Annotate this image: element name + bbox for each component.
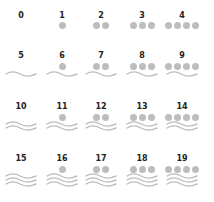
wave-group bbox=[161, 70, 203, 90]
wave-group bbox=[0, 120, 42, 140]
numeral-label: 8 bbox=[121, 52, 163, 60]
dot-group bbox=[41, 63, 83, 70]
numeral-cell: 6 bbox=[41, 52, 83, 92]
wave-group bbox=[121, 70, 163, 90]
numeral-label: 6 bbox=[41, 52, 83, 60]
numeral-cell: 19 bbox=[161, 155, 203, 195]
dot-icon bbox=[102, 63, 109, 70]
wave-icon bbox=[47, 126, 77, 131]
dot-icon bbox=[139, 22, 146, 29]
numeral-cell: 12 bbox=[80, 103, 122, 143]
dot-icon bbox=[183, 63, 190, 70]
wave-icon bbox=[86, 72, 116, 77]
numeral-label: 17 bbox=[80, 155, 122, 163]
dot-icon bbox=[192, 63, 199, 70]
numeral-label: 16 bbox=[41, 155, 83, 163]
dot-icon bbox=[148, 63, 155, 70]
numeral-cell: 5 bbox=[0, 52, 42, 92]
numeral-cell: 15 bbox=[0, 155, 42, 195]
dot-icon bbox=[93, 63, 100, 70]
numeral-label: 10 bbox=[0, 103, 42, 111]
wave-icon bbox=[6, 126, 36, 131]
numeral-label: 0 bbox=[0, 12, 42, 20]
dot-icon bbox=[183, 22, 190, 29]
wave-group bbox=[80, 70, 122, 90]
dot-group bbox=[80, 22, 122, 29]
numeral-cell: 4 bbox=[161, 12, 203, 52]
numeral-cell: 16 bbox=[41, 155, 83, 195]
dot-icon bbox=[59, 22, 66, 29]
wave-icon bbox=[6, 182, 36, 187]
numeral-cell: 10 bbox=[0, 103, 42, 143]
numeral-label: 7 bbox=[80, 52, 122, 60]
wave-icon bbox=[47, 72, 77, 77]
numeral-cell: 18 bbox=[121, 155, 163, 195]
wave-icon bbox=[167, 182, 197, 187]
wave-group bbox=[121, 172, 163, 192]
dot-icon bbox=[165, 63, 172, 70]
wave-icon bbox=[127, 126, 157, 131]
numeral-label: 3 bbox=[121, 12, 163, 20]
dot-group bbox=[41, 22, 83, 29]
dot-group bbox=[80, 63, 122, 70]
wave-group bbox=[41, 120, 83, 140]
numeral-label: 14 bbox=[161, 103, 203, 111]
numeral-cell: 13 bbox=[121, 103, 163, 143]
wave-group bbox=[80, 172, 122, 192]
numeral-label: 15 bbox=[0, 155, 42, 163]
wave-group bbox=[0, 70, 42, 90]
numeral-label: 5 bbox=[0, 52, 42, 60]
wave-icon bbox=[86, 182, 116, 187]
wave-icon bbox=[167, 72, 197, 77]
dot-icon bbox=[102, 22, 109, 29]
dot-icon bbox=[174, 22, 181, 29]
numeral-cell: 0 bbox=[0, 12, 42, 52]
numeral-label: 1 bbox=[41, 12, 83, 20]
dot-icon bbox=[174, 63, 181, 70]
numeral-label: 19 bbox=[161, 155, 203, 163]
numeral-label: 12 bbox=[80, 103, 122, 111]
numeral-cell: 3 bbox=[121, 12, 163, 52]
numeral-label: 18 bbox=[121, 155, 163, 163]
wave-icon bbox=[6, 72, 36, 77]
wave-group bbox=[121, 120, 163, 140]
numeral-label: 2 bbox=[80, 12, 122, 20]
wave-icon bbox=[47, 182, 77, 187]
dot-icon bbox=[59, 63, 66, 70]
wave-group bbox=[41, 70, 83, 90]
wave-icon bbox=[127, 72, 157, 77]
numeral-cell: 7 bbox=[80, 52, 122, 92]
wave-group bbox=[161, 172, 203, 192]
wave-group bbox=[80, 120, 122, 140]
wave-icon bbox=[86, 126, 116, 131]
numeral-label: 13 bbox=[121, 103, 163, 111]
numeral-cell: 1 bbox=[41, 12, 83, 52]
dot-group bbox=[121, 63, 163, 70]
dot-group bbox=[161, 63, 203, 70]
wave-group bbox=[0, 172, 42, 192]
dot-icon bbox=[192, 22, 199, 29]
dot-icon bbox=[139, 63, 146, 70]
dot-group bbox=[121, 22, 163, 29]
numeral-cell: 2 bbox=[80, 12, 122, 52]
dot-icon bbox=[93, 22, 100, 29]
wave-icon bbox=[127, 182, 157, 187]
wave-group bbox=[161, 120, 203, 140]
dot-icon bbox=[148, 22, 155, 29]
dot-icon bbox=[165, 22, 172, 29]
numeral-cell: 9 bbox=[161, 52, 203, 92]
dot-group bbox=[161, 22, 203, 29]
dot-icon bbox=[130, 22, 137, 29]
wave-icon bbox=[167, 126, 197, 131]
wave-group bbox=[41, 172, 83, 192]
numeral-cell: 14 bbox=[161, 103, 203, 143]
numeral-label: 9 bbox=[161, 52, 203, 60]
numeral-label: 11 bbox=[41, 103, 83, 111]
numeral-cell: 17 bbox=[80, 155, 122, 195]
numeral-label: 4 bbox=[161, 12, 203, 20]
numeral-cell: 11 bbox=[41, 103, 83, 143]
numeral-cell: 8 bbox=[121, 52, 163, 92]
dot-icon bbox=[130, 63, 137, 70]
